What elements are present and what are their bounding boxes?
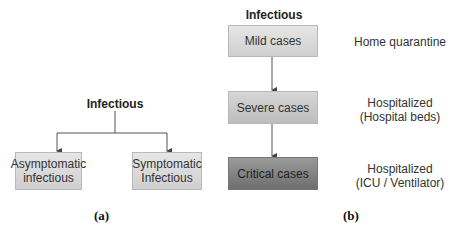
box-label-line2: infectious [11,171,86,185]
box-label: Severe cases [237,101,310,115]
mild-cases-box: Mild cases [228,25,318,57]
panel-b-title: Infectious [244,8,304,22]
outcome-line1: Home quarantine [345,35,455,49]
critical-cases-box: Critical cases [228,157,318,190]
outcome-hospital-beds: Hospitalized (Hospital beds) [345,96,455,124]
outcome-home-quarantine: Home quarantine [345,35,455,49]
asymptomatic-infectious-box: Asymptomatic infectious [15,152,82,190]
box-label: Mild cases [245,34,302,48]
outcome-line2: (Hospital beds) [345,110,455,124]
box-label-line1: Asymptomatic [11,157,86,171]
outcome-line1: Hospitalized [345,96,455,110]
box-label-line2: Infectious [132,171,201,185]
outcome-line2: (ICU / Ventilator) [345,176,455,190]
box-label: Critical cases [237,167,308,181]
symptomatic-infectious-box: Symptomatic Infectious [132,152,202,190]
panel-a-caption: (a) [94,208,109,224]
severe-cases-box: Severe cases [228,91,318,124]
panel-b-caption: (b) [343,208,359,224]
box-label-line1: Symptomatic [132,157,201,171]
outcome-icu-ventilator: Hospitalized (ICU / Ventilator) [345,162,455,190]
panel-a-title: Infectious [85,97,145,111]
outcome-line1: Hospitalized [345,162,455,176]
